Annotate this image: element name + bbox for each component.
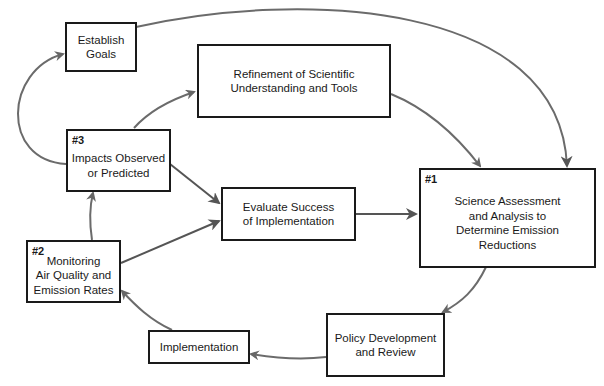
node-impacts: #3 Impacts Observed or Predicted: [66, 129, 171, 192]
node-label: Impacts Observed or Predicted: [72, 151, 165, 180]
arrow-refinement-to-science: [391, 94, 480, 166]
node-refinement: Refinement of Scientific Understanding a…: [197, 44, 391, 118]
node-label: Science Assessment and Analysis to Deter…: [454, 194, 560, 252]
node-label: Policy Development and Review: [335, 331, 437, 360]
node-label: Monitoring Air Quality and Emission Rate…: [34, 254, 114, 298]
node-science-assessment: #1 Science Assessment and Analysis to De…: [419, 168, 596, 268]
node-monitoring: #2 Monitoring Air Quality and Emission R…: [26, 240, 121, 303]
node-policy-development: Policy Development and Review: [326, 313, 445, 377]
node-number: #3: [72, 133, 84, 148]
node-establish-goals: Establish Goals: [65, 22, 137, 72]
node-evaluate: Evaluate Success of Implementation: [221, 187, 356, 241]
arrow-policy-to-implementation: [251, 354, 326, 358]
arrow-monitoring-to-impacts: [90, 193, 93, 240]
node-implementation: Implementation: [148, 330, 250, 364]
arrow-science-to-policy: [443, 267, 486, 312]
node-label: Refinement of Scientific Understanding a…: [230, 67, 357, 96]
arrow-implementation-to-monitoring: [122, 291, 172, 330]
node-label: Evaluate Success of Implementation: [243, 200, 334, 229]
arrow-impacts-to-goals: [18, 54, 66, 164]
arrow-impacts-to-evaluate: [170, 164, 219, 203]
node-number: #1: [425, 172, 437, 187]
node-label: Establish Goals: [78, 33, 125, 62]
arrow-monitoring-to-evaluate: [121, 221, 219, 263]
arrow-impacts-to-refinement: [134, 92, 194, 128]
node-number: #2: [32, 244, 44, 259]
node-label: Implementation: [160, 340, 239, 355]
